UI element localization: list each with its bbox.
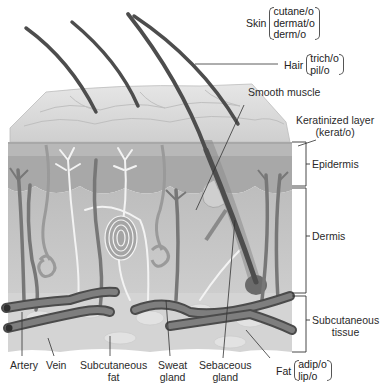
sebaceous-gland-line2: gland	[199, 371, 252, 383]
pacinian-corpuscle	[105, 216, 137, 260]
sebaceous-gland-label: Sebaceous gland	[199, 359, 252, 383]
keratinized-layer-label: Keratinized layer (kerat/o)	[296, 114, 374, 138]
subcutaneous-tissue-line2: tissue	[312, 326, 379, 338]
skin-label: Skin	[246, 17, 266, 29]
sweat-gland-line1: Sweat	[158, 359, 187, 371]
smooth-muscle-label: Smooth muscle	[248, 86, 320, 98]
subcutaneous-fat-line1: Subcutaneous	[80, 359, 147, 371]
subcutaneous-fat-label: Subcutaneous fat	[80, 359, 147, 383]
subcutaneous-tissue-line1: Subcutaneous	[312, 314, 379, 326]
skin-root-3: derm/o	[273, 29, 314, 41]
skin-label-group: Skin cutane/o dermat/o derm/o	[246, 6, 319, 41]
fat-label: Fat	[276, 365, 291, 377]
vein-label: Vein	[46, 359, 66, 371]
skin-roots-brace: cutane/o dermat/o derm/o	[269, 6, 318, 41]
dermis-label: Dermis	[312, 230, 345, 242]
subcutaneous-fat-line2: fat	[80, 371, 147, 383]
skin-root-1: cutane/o	[273, 6, 314, 18]
hair-root-2: pil/o	[310, 65, 339, 77]
skin-diagram: Skin cutane/o dermat/o derm/o Hair trich…	[0, 0, 382, 387]
sweat-gland-label: Sweat gland	[158, 359, 187, 383]
hair-roots-brace: trich/o pil/o	[306, 53, 343, 76]
hair-root-1: trich/o	[310, 53, 339, 65]
fat-roots-brace: adip/o lip/o	[294, 359, 331, 382]
hair-label-group: Hair trich/o pil/o	[284, 53, 343, 76]
layer-brackets	[292, 142, 310, 352]
fat-root-2: lip/o	[298, 371, 327, 383]
subcutaneous-tissue-label: Subcutaneous tissue	[312, 314, 379, 338]
keratinized-layer-line2: (kerat/o)	[296, 126, 374, 138]
sweat-gland-line2: gland	[158, 371, 187, 383]
fat-root-1: adip/o	[298, 359, 327, 371]
keratinized-layer-line1: Keratinized layer	[296, 114, 374, 126]
hair-label: Hair	[284, 59, 303, 71]
sebaceous-gland-line1: Sebaceous	[199, 359, 252, 371]
fat-label-group: Fat adip/o lip/o	[276, 359, 331, 382]
artery-label: Artery	[10, 359, 38, 371]
epidermis-label: Epidermis	[312, 158, 359, 170]
